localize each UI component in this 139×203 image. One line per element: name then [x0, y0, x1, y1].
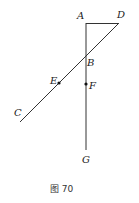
geometry-diagram: A D B E F C G 图 70 [0, 0, 139, 203]
label-B: B [86, 57, 94, 68]
figure-caption: 图 70 [50, 184, 74, 194]
point-F-dot [84, 82, 87, 85]
label-D: D [116, 9, 125, 20]
segment-DC [20, 23, 119, 122]
label-E: E [49, 75, 58, 86]
label-C: C [14, 107, 22, 118]
label-A: A [76, 10, 84, 21]
label-G: G [82, 154, 90, 165]
point-E-dot [57, 81, 60, 84]
label-F: F [88, 80, 97, 91]
